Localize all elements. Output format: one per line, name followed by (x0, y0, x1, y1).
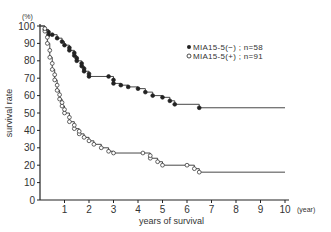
legend-item-negative: MIA15-5(−) ; n=58 (187, 43, 263, 52)
open-circle-icon (48, 55, 52, 59)
y-tick-label: 70 (24, 73, 36, 84)
filled-circle-icon (55, 36, 59, 40)
filled-circle-icon (173, 102, 177, 106)
filled-circle-icon (187, 45, 191, 49)
open-circle-icon (45, 42, 49, 46)
x-tick-label: 10 (279, 204, 291, 215)
legend-label: MIA15-5(−) ; n=58 (193, 43, 263, 52)
filled-circle-icon (75, 56, 79, 60)
filled-circle-icon (112, 78, 116, 82)
x-tick-label: 2 (86, 204, 92, 215)
y-tick-label: 50 (24, 108, 36, 119)
open-circle-icon (107, 149, 111, 153)
y-tick-label: 10 (24, 177, 36, 188)
legend-item-positive: MIA15-5(+) ; n=91 (187, 52, 263, 61)
x-tick-label: 9 (258, 204, 264, 215)
filled-circle-icon (50, 33, 54, 37)
open-circle-icon (156, 160, 160, 164)
filled-circle-icon (72, 51, 76, 55)
filled-circle-icon (126, 85, 130, 89)
open-circle-icon (87, 139, 91, 143)
y-tick-label: 80 (24, 55, 36, 66)
open-circle-icon (192, 167, 196, 171)
open-circle-icon (77, 129, 81, 133)
y-axis: 0102030405060708090100 (18, 21, 40, 206)
filled-circle-icon (161, 95, 165, 99)
filled-circle-icon (168, 99, 172, 103)
y-tick-label: 90 (24, 38, 36, 49)
open-circle-icon (197, 170, 201, 174)
open-circle-icon (92, 142, 96, 146)
open-circle-icon (141, 151, 145, 155)
survival-chart: 0102030405060708090100 12345678910 (%) (… (0, 0, 331, 232)
open-circle-icon (55, 83, 59, 87)
x-axis: 12345678910 (40, 200, 291, 215)
x-tick-label: 8 (233, 204, 239, 215)
open-circle-icon (99, 146, 103, 150)
x-tick-label: 3 (111, 204, 117, 215)
filled-circle-icon (197, 106, 201, 110)
x-axis-title: years of survival (139, 216, 204, 226)
open-circle-icon (43, 27, 47, 31)
legend: MIA15-5(−) ; n=58 MIA15-5(+) ; n=91 (187, 43, 263, 61)
y-tick-label: 40 (24, 125, 36, 136)
x-tick-label: 1 (62, 204, 68, 215)
open-circle-icon (58, 93, 62, 97)
filled-circle-icon (60, 40, 64, 44)
x-tick-label: 4 (135, 204, 141, 215)
open-circle-icon (60, 101, 64, 105)
open-circle-icon (63, 108, 67, 112)
y-tick-label: 30 (24, 142, 36, 153)
open-circle-icon (68, 120, 72, 124)
x-tick-label: 5 (160, 204, 166, 215)
open-circle-icon (45, 35, 49, 39)
open-circle-icon (53, 78, 57, 82)
filled-circle-icon (63, 43, 67, 47)
open-circle-icon (72, 123, 76, 127)
open-circle-icon (53, 73, 57, 77)
x-tick-label: 7 (209, 204, 215, 215)
filled-circle-icon (151, 94, 155, 98)
open-circle-icon (48, 48, 52, 52)
y-tick-label: 100 (18, 21, 35, 32)
open-circle-icon (148, 154, 152, 158)
open-circle-icon (58, 97, 62, 101)
open-circle-icon (68, 115, 72, 119)
open-circle-icon (185, 163, 189, 167)
y-tick-label: 0 (29, 195, 35, 206)
y-axis-title: survival rate (4, 89, 14, 138)
filled-circle-icon (136, 87, 140, 91)
filled-circle-icon (119, 83, 123, 87)
filled-circle-icon (82, 67, 86, 71)
filled-circle-icon (80, 62, 84, 66)
legend-label: MIA15-5(+) ; n=91 (193, 52, 263, 61)
filled-circle-icon (68, 46, 72, 50)
open-circle-icon (161, 163, 165, 167)
open-circle-icon (50, 62, 54, 66)
y-unit-label: (%) (22, 13, 33, 21)
filled-circle-icon (107, 75, 111, 79)
x-unit-label: (year) (297, 206, 315, 214)
filled-circle-icon (143, 90, 147, 94)
filled-circle-icon (87, 72, 91, 76)
open-circle-icon (112, 151, 116, 155)
y-tick-label: 60 (24, 90, 36, 101)
open-circle-icon (82, 135, 86, 139)
open-circle-icon (55, 88, 59, 92)
open-circle-icon (50, 68, 54, 72)
x-tick-label: 6 (184, 204, 190, 215)
open-circle-icon (187, 54, 191, 58)
y-tick-label: 20 (24, 160, 36, 171)
